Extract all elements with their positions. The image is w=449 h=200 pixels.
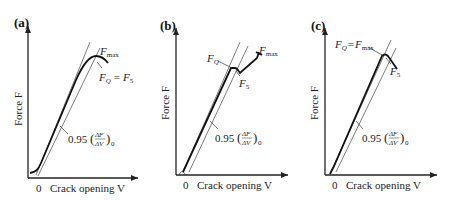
force-curve xyxy=(30,56,108,173)
x-axis-label: Crack opening V xyxy=(50,182,125,194)
svg-text:0.95: 0.95 xyxy=(68,133,88,145)
secant-line-95 xyxy=(38,48,100,176)
fq-label: FQ xyxy=(206,52,219,66)
panel-b: (b) 0 Crack opening V Force F FQ F5 Fmax… xyxy=(159,18,288,191)
svg-text:): ) xyxy=(106,131,110,146)
fmax-label: Fmax xyxy=(258,44,278,58)
svg-text:0.95: 0.95 xyxy=(362,132,382,144)
svg-text:ΔV: ΔV xyxy=(94,140,104,148)
panel-a: (a) 0 Crack opening V Force F Fmax FQ=F5… xyxy=(12,15,138,194)
svg-text:ΔF: ΔF xyxy=(94,131,104,139)
svg-text:0.95: 0.95 xyxy=(215,132,235,144)
svg-text:ΔV: ΔV xyxy=(241,139,251,147)
panel-a-label: (a) xyxy=(14,15,29,30)
origin-label: 0 xyxy=(332,179,338,191)
f5-label: F5 xyxy=(389,65,401,79)
y-axis-label: Force F xyxy=(159,86,171,120)
slope-label: 0.95 ( ΔF ΔV ) 0 xyxy=(215,130,262,147)
svg-text:0: 0 xyxy=(258,139,262,147)
x-axis-label: Crack opening V xyxy=(197,179,272,191)
svg-text:0: 0 xyxy=(405,139,409,147)
origin-label: 0 xyxy=(183,179,189,191)
fq-equals-fmax-label: FQ=Fmax xyxy=(334,38,374,52)
svg-text:(: ( xyxy=(384,130,388,145)
svg-text:ΔF: ΔF xyxy=(241,130,251,138)
fmax-label: Fmax xyxy=(99,45,119,59)
panel-c-label: (c) xyxy=(311,18,325,33)
panel-c: (c) 0 Crack opening V Force F FQ=Fmax F5… xyxy=(308,18,437,191)
force-curve xyxy=(330,55,397,175)
origin-label: 0 xyxy=(36,182,42,194)
slope-leader xyxy=(60,126,68,134)
slope-label: 0.95 ( ΔF ΔV ) 0 xyxy=(68,131,115,148)
f5-label: F5 xyxy=(238,77,250,91)
fq-equals-f5-label: FQ=F5 xyxy=(98,71,134,85)
x-axis-label: Crack opening V xyxy=(346,179,421,191)
svg-text:): ) xyxy=(253,130,257,145)
secant-line-95 xyxy=(336,48,396,172)
panel-b-label: (b) xyxy=(160,18,176,33)
svg-text:(: ( xyxy=(90,131,94,146)
force-crack-opening-diagram: (a) 0 Crack opening V Force F Fmax FQ=F5… xyxy=(0,0,449,200)
y-axis-label: Force F xyxy=(12,92,24,126)
svg-text:ΔF: ΔF xyxy=(388,130,398,138)
svg-text:(: ( xyxy=(237,130,241,145)
y-axis-label: Force F xyxy=(308,86,320,120)
svg-text:ΔV: ΔV xyxy=(388,139,398,147)
svg-text:): ) xyxy=(400,130,404,145)
force-curve xyxy=(183,52,262,172)
svg-text:0: 0 xyxy=(111,140,115,148)
slope-label: 0.95 ( ΔF ΔV ) 0 xyxy=(362,130,409,147)
fq-leader xyxy=(97,62,102,68)
